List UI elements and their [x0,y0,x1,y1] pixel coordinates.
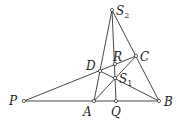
labels: S2 C R D S1 P A Q B [8,4,173,119]
label-c: C [140,50,149,64]
segments [24,10,159,101]
point-c [134,54,137,57]
geometry-diagram: S2 C R D S1 P A Q B [0,0,184,123]
point-s1 [113,76,116,79]
label-s1: S1 [119,72,132,88]
label-d: D [85,59,96,73]
label-b: B [163,95,173,109]
label-s2: S2 [116,4,129,20]
point-d [98,69,101,72]
label-p: P [8,94,18,108]
label-q: Q [111,105,121,119]
segment-s2-a [94,10,112,101]
point-a [92,99,95,102]
label-r: R [112,50,122,64]
point-q [114,99,117,102]
point-b [157,99,160,102]
label-a: A [82,105,92,119]
point-s2 [110,8,113,11]
point-p [22,99,25,102]
